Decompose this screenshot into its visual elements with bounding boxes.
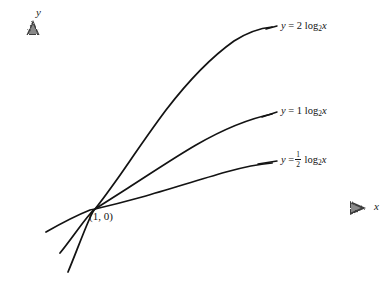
fraction-denominator: 2	[295, 161, 301, 169]
logarithmic-curves-figure: y x (1, 0) y = 2 log2x y = 1 log2x y =12…	[0, 0, 390, 289]
fraction-numerator: 1	[295, 151, 301, 159]
curve-label-2log2x-arg: x	[322, 20, 327, 31]
curve-label-1log2x: y = 1 log2x	[281, 105, 327, 118]
curve-label-2log2x-log: log	[305, 20, 318, 31]
fraction-one-half: 12	[295, 151, 301, 168]
y-axis-arrowhead	[27, 20, 40, 35]
leader-line-1log2x	[262, 112, 277, 117]
curve-label-halflog2x-log: log	[305, 154, 318, 165]
graph-canvas	[0, 0, 390, 289]
curves-group	[46, 27, 272, 272]
y-axis-label: y	[36, 7, 41, 18]
curve-1log2x	[60, 114, 272, 253]
curve-label-1log2x-arg: x	[322, 105, 327, 116]
curve-label-1log2x-log: log	[305, 105, 318, 116]
curve-label-halflog2x-lhs: y	[281, 154, 286, 165]
point-label-1-0: (1, 0)	[89, 210, 113, 222]
curve-label-halflog2x-eq: =	[288, 154, 294, 165]
curve-label-halflog2x-arg: x	[322, 154, 327, 165]
curve-halflog2x	[46, 163, 272, 232]
curve-label-halflog2x: y =12 log2x	[281, 151, 326, 168]
label-leader-lines	[258, 26, 277, 164]
x-axis-label: x	[374, 201, 379, 212]
x-axis-arrowhead	[350, 201, 366, 215]
curve-label-1log2x-eq: = 1	[288, 105, 302, 116]
curve-2log2x	[68, 27, 272, 272]
curve-label-2log2x-lhs: y	[281, 20, 286, 31]
curve-label-2log2x: y = 2 log2x	[281, 20, 327, 33]
curve-label-2log2x-eq: = 2	[288, 20, 302, 31]
curve-label-1log2x-lhs: y	[281, 105, 286, 116]
